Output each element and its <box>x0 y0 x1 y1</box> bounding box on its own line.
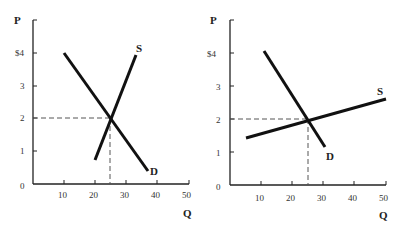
right-chart: S D P Q $4 3 2 1 0 10 20 30 40 50 <box>207 14 389 221</box>
demand-curve <box>64 53 148 171</box>
y-tick-0: 0 <box>216 182 221 192</box>
left-chart: S D P Q $4 3 2 1 0 10 20 30 40 50 <box>14 14 192 219</box>
demand-label: D <box>326 150 334 162</box>
demand-curve <box>264 51 325 147</box>
q-axis-label: Q <box>379 209 388 221</box>
q-axis-label: Q <box>183 207 192 219</box>
x-tick-40: 40 <box>151 190 161 200</box>
y-tick-4: $4 <box>15 48 25 58</box>
p-axis-label: P <box>14 14 21 26</box>
chart-canvas: S D P Q $4 3 2 1 0 10 20 30 40 50 S D <box>0 0 406 232</box>
x-tick-10: 10 <box>255 193 265 203</box>
y-tick-2: 2 <box>216 115 221 125</box>
p-axis-label: P <box>210 14 217 26</box>
x-tick-10: 10 <box>58 190 68 200</box>
x-tick-20: 20 <box>89 190 99 200</box>
x-tick-50: 50 <box>182 190 192 200</box>
y-tick-4: $4 <box>207 49 217 59</box>
y-tick-3: 3 <box>216 82 221 92</box>
x-tick-30: 30 <box>120 190 130 200</box>
y-tick-1: 1 <box>216 148 221 158</box>
x-tick-30: 30 <box>317 193 327 203</box>
supply-label: S <box>136 42 142 54</box>
y-tick-1: 1 <box>20 146 25 156</box>
y-tick-0: 0 <box>20 181 25 191</box>
y-tick-3: 3 <box>20 81 25 91</box>
demand-label: D <box>150 165 158 177</box>
x-tick-50: 50 <box>379 193 389 203</box>
x-tick-20: 20 <box>286 193 296 203</box>
x-tick-40: 40 <box>348 193 358 203</box>
y-tick-2: 2 <box>20 113 25 123</box>
supply-label: S <box>377 85 383 97</box>
